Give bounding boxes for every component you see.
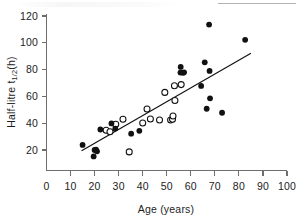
chart-canvas: 20406080100120 0102030405060708090100 Ag… [0,0,298,222]
y-axis-ticks [42,16,47,150]
data-point-open [172,97,178,103]
x-tick-label: 60 [185,180,197,192]
data-point-filled [112,126,118,132]
data-point-filled [198,83,204,89]
x-axis-title: Age (years) [138,203,194,215]
x-tick-label: 0 [43,180,49,192]
data-point-filled [109,121,115,127]
scatter-plot-figure: 20406080100120 0102030405060708090100 Ag… [0,0,298,222]
x-axis-tick-labels: 0102030405060708090100 [43,180,296,192]
x-tick-label: 10 [65,180,77,192]
data-point-open [157,117,163,123]
y-tick-label: 60 [26,90,38,102]
data-point-filled [202,59,208,65]
y-tick-label: 80 [26,63,38,75]
data-point-filled [136,128,142,134]
regression-line [82,53,251,151]
data-point-open [147,116,153,122]
data-point-filled [80,142,86,148]
x-axis-ticks [71,171,287,176]
data-point-open [144,106,150,112]
y-axis-tick-labels: 20406080100120 [20,10,38,156]
data-point-filled [94,148,100,154]
y-axis-title-unit: (h) [5,56,17,69]
data-point-filled [219,110,225,116]
y-tick-label: 40 [26,117,38,129]
x-tick-label: 70 [209,180,221,192]
y-axis-title: Half-litre t1/2(h) [5,56,19,128]
x-tick-label: 40 [137,180,149,192]
data-point-open [162,89,168,95]
data-point-filled [207,68,213,74]
x-tick-label: 20 [89,180,101,192]
y-tick-label: 20 [26,144,38,156]
series-open-circles [103,82,184,155]
x-tick-label: 90 [257,180,269,192]
data-point-filled [91,154,97,160]
x-tick-label: 100 [278,180,296,192]
data-point-filled [97,127,103,133]
x-tick-label: 30 [113,180,125,192]
data-point-open [126,149,132,155]
y-tick-label: 120 [20,10,38,22]
data-point-open [107,129,113,135]
x-tick-label: 80 [233,180,245,192]
svg-text:Half-litre t1/2(h): Half-litre t1/2(h) [5,56,19,128]
data-point-filled [204,106,210,112]
data-point-open [140,120,146,126]
data-point-open [171,83,177,89]
data-point-filled [178,64,184,70]
y-tick-label: 100 [20,36,38,48]
data-point-open [120,116,126,122]
y-axis-title-subscript: 1/2 [10,70,19,81]
data-point-open [170,113,176,119]
x-tick-label: 50 [161,180,173,192]
data-point-filled [242,37,248,43]
y-axis-title-main: Half-litre t [5,80,17,127]
data-point-filled [207,95,213,101]
data-point-filled [128,131,134,137]
data-point-filled [181,69,187,75]
data-point-filled [206,22,212,28]
data-point-open [178,82,184,88]
